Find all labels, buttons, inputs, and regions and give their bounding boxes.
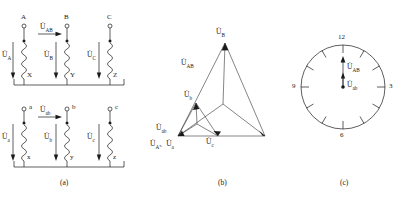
tick-1 <box>360 51 364 58</box>
label-voltage-UA: U̇A <box>2 50 11 61</box>
arrow-head-UA <box>11 73 15 80</box>
terminal-circle-c <box>108 107 112 111</box>
lv-phase-c <box>97 107 113 167</box>
tick-2 <box>373 66 380 70</box>
label-clock-Uab-sub: ab <box>352 85 357 91</box>
label-phasor-Uab-sub: ab <box>161 128 166 134</box>
label-terminal-Z: Z <box>113 71 117 79</box>
polarity-dot-A <box>23 40 26 43</box>
polarity-dot-C <box>109 40 112 43</box>
arrow-head-UAB <box>56 32 63 36</box>
label-voltage-Uab: U̇ab <box>40 105 50 116</box>
arrow-head-Ua <box>11 155 15 162</box>
caption-panel-b: (b) <box>218 178 227 187</box>
label-terminal-a: a <box>29 103 32 111</box>
label-clock-hand-Uab: U̇ab <box>347 80 357 91</box>
arrow-head-Ub <box>54 155 58 162</box>
coil-A <box>22 43 27 79</box>
lv-phase-a <box>11 107 27 167</box>
arrow-head-phasor-UA-Ua <box>178 131 185 136</box>
panel-a <box>11 24 124 167</box>
tick-10 <box>307 66 314 70</box>
label-phasor-UB: U̇B <box>216 27 225 38</box>
label-voltage-Ub: U̇b <box>44 132 52 143</box>
terminal-circle-C <box>108 24 112 28</box>
figure-svg <box>0 0 406 201</box>
phasor-small-center-to-c <box>197 124 218 136</box>
terminal-circle-A <box>22 24 26 28</box>
label-terminal-X: X <box>27 71 32 79</box>
label-terminal-y: y <box>70 153 74 161</box>
label-terminal-A: A <box>21 13 26 21</box>
coil-b <box>65 125 70 161</box>
tick-7 <box>322 117 326 124</box>
arrow-head-clock-UAB <box>341 56 346 63</box>
arrow-head-UB <box>54 73 58 80</box>
arrow-head-phasor-UB <box>222 43 229 51</box>
label-voltage-Uc-sub: c <box>92 137 94 143</box>
clock-number-6: 6 <box>340 131 344 139</box>
coil-c <box>108 125 113 161</box>
label-voltage-UAB: U̇AB <box>40 22 53 33</box>
label-terminal-Y: Y <box>70 71 75 79</box>
hv-phase-a <box>11 24 27 85</box>
label-clock-UAB-sub: AB <box>352 67 359 73</box>
hv-phase-c <box>97 24 113 85</box>
arrow-head-UC <box>97 73 101 80</box>
caption-panel-c: (c) <box>340 178 348 187</box>
coil-a <box>22 125 27 161</box>
label-terminal-b: b <box>72 103 76 111</box>
label-voltage-UC-sub: C <box>92 55 95 61</box>
label-phasor-UAB-sub: AB <box>186 63 193 69</box>
arrow-head-Uc <box>97 155 101 162</box>
clock-number-9: 9 <box>292 82 296 90</box>
label-voltage-Uc: U̇c <box>87 132 95 143</box>
polarity-dot-b <box>66 122 69 125</box>
phasor-B-to-center <box>223 43 225 104</box>
terminal-circle-B <box>65 24 69 28</box>
phasor-small-edge-a-b <box>178 103 196 136</box>
terminal-circle-b <box>65 107 69 111</box>
figure-root: A B C X Y Z a b c x y z U̇A U̇B U̇C U̇AB… <box>0 0 406 201</box>
caption-panel-a: (a) <box>60 178 68 187</box>
arrow-head-clock-Uab <box>341 73 345 79</box>
phasor-edge-B-right <box>225 43 265 136</box>
label-terminal-x: x <box>27 153 31 161</box>
polarity-dot-c <box>109 122 112 125</box>
label-voltage-Ub-sub: b <box>49 137 52 143</box>
label-phasor-Ub-sub: b <box>189 95 192 101</box>
label-phasor-Uc-sub: c <box>211 142 213 148</box>
polarity-dot-a <box>23 122 26 125</box>
label-terminal-B: B <box>64 13 69 21</box>
terminal-circle-a <box>22 107 26 111</box>
label-terminal-C: C <box>107 13 112 21</box>
label-phasor-Uc: U̇c <box>206 137 214 148</box>
coil-C <box>108 43 113 79</box>
label-terminal-c: c <box>115 103 118 111</box>
clock-number-3: 3 <box>389 82 393 90</box>
clock-number-12: 12 <box>338 33 345 41</box>
tick-11 <box>322 51 326 58</box>
coil-B <box>65 43 70 79</box>
label-phasor-UB-sub: B <box>221 32 224 38</box>
polarity-dot-B <box>66 40 69 43</box>
label-voltage-UA-sub: A <box>7 55 11 61</box>
label-voltage-Ua-sub: a <box>7 137 9 143</box>
phasor-center-to-right <box>223 104 265 136</box>
label-phasor-Ub: U̇b <box>184 90 192 101</box>
label-voltage-UAB-sub: AB <box>45 27 52 33</box>
label-voltage-UB-sub: B <box>49 55 52 61</box>
label-phasor-Ua-sub: a <box>172 144 174 150</box>
label-phasor-UA-Ua: U̇A、U̇a <box>150 137 174 150</box>
label-phasor-Uab: U̇ab <box>156 123 166 134</box>
label-voltage-UC: U̇C <box>87 50 96 61</box>
label-voltage-Uab-sub: ab <box>45 110 50 116</box>
panel-c <box>301 45 385 129</box>
label-clock-hand-UAB: U̇AB <box>347 62 360 73</box>
label-terminal-z: z <box>113 153 116 161</box>
tick-8 <box>307 104 314 108</box>
label-voltage-UB: U̇B <box>44 50 53 61</box>
label-phasor-UAB: U̇AB <box>181 58 194 69</box>
arrow-head-Uab <box>56 115 63 119</box>
label-voltage-Ua: U̇a <box>2 132 10 143</box>
